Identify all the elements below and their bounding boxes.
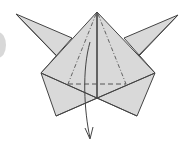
origami-diagram: [0, 0, 186, 148]
